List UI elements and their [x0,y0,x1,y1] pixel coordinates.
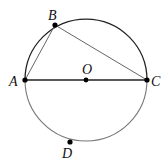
point-o [84,78,89,83]
chord-bc [55,25,147,80]
chord-ab [25,25,55,80]
label-d: D [61,146,72,161]
diagram-canvas: A B O C D [0,0,168,165]
label-b: B [48,8,57,23]
lower-arc [25,80,147,141]
circle-diagram: A B O C D [0,0,168,165]
point-d [67,139,72,144]
point-c [144,77,149,82]
point-a [22,77,27,82]
label-a: A [8,74,18,89]
label-c: C [151,74,161,89]
point-b [52,22,57,27]
label-o: O [82,62,92,77]
